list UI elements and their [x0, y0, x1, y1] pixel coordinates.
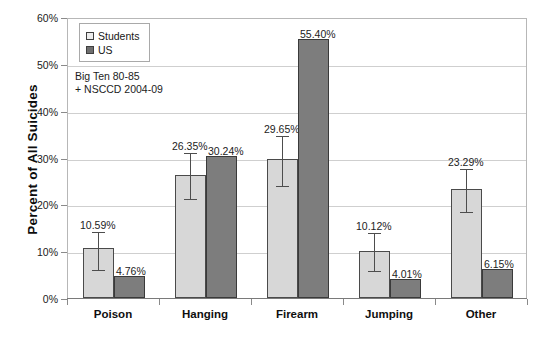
bar-poison-us	[114, 276, 145, 298]
legend-swatch-icon	[86, 46, 94, 54]
x-axis-line	[67, 298, 527, 299]
annotation-line-1: Big Ten 80-85	[75, 70, 163, 83]
chart-legend: StudentsUS	[79, 23, 150, 62]
annotation-line-2: + NSCCD 2004-09	[75, 83, 163, 96]
gridline	[68, 66, 526, 67]
legend-label: US	[98, 44, 113, 56]
y-tick-label: 40%	[12, 106, 58, 118]
value-label-jumping-students: 10.12%	[356, 220, 392, 232]
bar-hanging-students	[175, 175, 206, 298]
value-label-hanging-us: 30.24%	[208, 145, 244, 157]
bar-other-students	[451, 189, 482, 298]
y-tick-label: 10%	[12, 246, 58, 258]
bar-jumping-students	[359, 251, 390, 298]
value-label-firearm-us: 55.40%	[300, 28, 336, 40]
bar-firearm-students	[267, 159, 298, 298]
x-tick-mark	[67, 299, 68, 305]
bar-jumping-us	[390, 279, 421, 298]
bar-other-us	[482, 269, 513, 298]
gridline	[68, 113, 526, 114]
legend-swatch-icon	[86, 32, 94, 40]
bar-firearm-us	[298, 39, 329, 298]
x-tick-label-hanging: Hanging	[182, 308, 228, 320]
value-label-other-students: 23.29%	[448, 156, 484, 168]
value-label-poison-students: 10.59%	[80, 219, 116, 231]
value-label-other-us: 6.15%	[484, 258, 514, 270]
x-tick-mark	[343, 299, 344, 305]
legend-item-students: Students	[86, 29, 139, 42]
source-annotation: Big Ten 80-85 + NSCCD 2004-09	[75, 70, 163, 96]
y-tick-label: 20%	[12, 199, 58, 211]
x-tick-mark	[159, 299, 160, 305]
x-tick-label-other: Other	[466, 308, 497, 320]
value-label-poison-us: 4.76%	[116, 265, 146, 277]
y-tick-label: 60%	[12, 12, 58, 24]
bar-poison-students	[83, 248, 114, 298]
x-tick-mark	[251, 299, 252, 305]
x-tick-label-jumping: Jumping	[365, 308, 413, 320]
value-label-hanging-students: 26.35%	[172, 140, 208, 152]
x-tick-label-firearm: Firearm	[276, 308, 318, 320]
y-tick-label: 50%	[12, 59, 58, 71]
bar-chart: Percent of All Suicides 0%10%20%30%40%50…	[0, 0, 534, 344]
x-tick-mark	[527, 299, 528, 305]
y-tick-label: 0%	[12, 293, 58, 305]
y-tick-label: 30%	[12, 153, 58, 165]
value-label-firearm-students: 29.65%	[264, 123, 300, 135]
legend-label: Students	[98, 30, 139, 42]
value-label-jumping-us: 4.01%	[392, 268, 422, 280]
x-tick-mark	[435, 299, 436, 305]
x-tick-label-poison: Poison	[94, 308, 132, 320]
legend-item-us: US	[86, 43, 139, 56]
bar-hanging-us	[206, 156, 237, 298]
